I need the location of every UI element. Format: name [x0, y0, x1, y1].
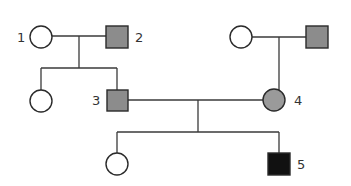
label-1: 1 [17, 30, 25, 45]
label-2: 2 [135, 30, 143, 45]
label-3: 3 [92, 93, 100, 108]
female-unaffected-gen3 [106, 153, 128, 175]
female-unaffected-gen2 [30, 90, 52, 112]
male-shaded-2 [106, 26, 128, 48]
pedigree-chart: 1 2 3 4 5 [0, 0, 351, 186]
male-affected-5 [268, 153, 290, 175]
label-5: 5 [297, 157, 305, 172]
label-4: 4 [294, 93, 302, 108]
male-shaded-3 [107, 90, 128, 111]
female-shaded-4 [263, 89, 285, 111]
female-unaffected-1 [30, 26, 52, 48]
female-unaffected-gen1-right [230, 26, 252, 48]
male-shaded-gen1-right [306, 26, 328, 48]
